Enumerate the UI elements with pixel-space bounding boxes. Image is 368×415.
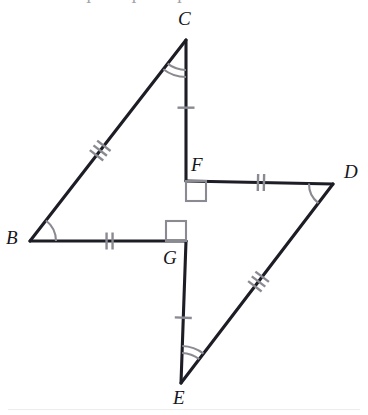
bottom-divider	[8, 409, 360, 410]
angle-arc-c-1	[168, 64, 186, 70]
tick-ge-1	[175, 317, 192, 318]
segments-layer	[30, 40, 333, 383]
vertex-label-g: G	[163, 248, 177, 267]
tick-group-ge	[175, 317, 192, 318]
angle-mark-d	[309, 184, 318, 204]
segment-ge	[181, 241, 186, 383]
angle-mark-b	[46, 220, 56, 241]
geometry-figure: I I I B C D E F G	[0, 0, 368, 415]
vertex-label-b: B	[6, 228, 18, 247]
tick-group-de	[248, 272, 269, 292]
vertex-label-f: F	[191, 155, 203, 174]
vertex-label-c: C	[178, 9, 191, 28]
right-angle-G	[166, 221, 186, 241]
right-angle-marks-layer	[166, 181, 206, 241]
segment-fd	[186, 181, 333, 184]
angle-arc-e-1	[182, 353, 199, 359]
vertex-label-d: D	[344, 162, 358, 181]
vertex-label-e: E	[173, 388, 185, 407]
right-angle-F	[186, 181, 206, 201]
figure-canvas	[0, 0, 368, 415]
segment-bc	[30, 40, 186, 241]
angle-arc-d-1	[309, 184, 318, 204]
angle-arc-b-1	[46, 220, 56, 241]
tick-marks-layer	[90, 108, 269, 318]
